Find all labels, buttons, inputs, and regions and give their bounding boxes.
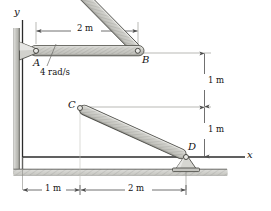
dimension-label-right-lower: 1 m bbox=[208, 125, 224, 134]
link-AB bbox=[30, 46, 144, 56]
joint-label-D: D bbox=[188, 142, 196, 152]
dimension-label-bottom-right: 2 m bbox=[128, 184, 144, 193]
pin-B bbox=[135, 48, 140, 53]
linkage-figure bbox=[0, 0, 271, 211]
joint-label-B: B bbox=[142, 55, 149, 65]
pin-D bbox=[184, 155, 189, 160]
link-CD bbox=[78, 104, 188, 161]
axis-label-x: x bbox=[247, 150, 253, 160]
dimension-label-top: 2 m bbox=[77, 24, 93, 33]
axis-label-y: y bbox=[14, 7, 20, 17]
dimension-label-right-upper: 1 m bbox=[208, 76, 224, 85]
pin-A bbox=[34, 48, 39, 53]
dimension-label-bottom-left: 1 m bbox=[45, 184, 61, 193]
angular-velocity-label: 4 rad/s bbox=[40, 68, 70, 77]
wall-support bbox=[14, 28, 20, 174]
joint-label-C: C bbox=[68, 100, 76, 110]
pin-C bbox=[78, 106, 83, 111]
